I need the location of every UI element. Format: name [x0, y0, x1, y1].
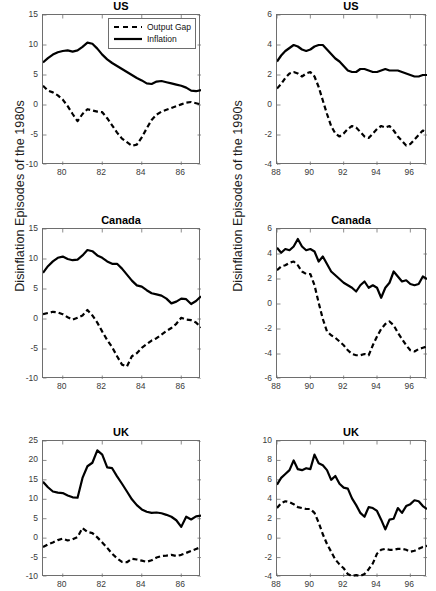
- x-tick-label: 94: [371, 381, 380, 391]
- x-tick-label: 96: [405, 167, 414, 177]
- x-tick-label: 88: [271, 167, 280, 177]
- series-inflation: [277, 455, 427, 530]
- series-output-gap: [43, 310, 201, 366]
- y-tick-label: -5: [4, 552, 38, 562]
- y-tick-label: 6: [238, 223, 272, 233]
- y-tick-label: 10: [4, 253, 38, 263]
- panel-title: UK: [276, 426, 426, 438]
- x-tick-label: 84: [136, 167, 145, 177]
- y-tick-label: -5: [4, 129, 38, 139]
- y-tick-label: -2: [238, 129, 272, 139]
- x-tick-label: 96: [405, 579, 414, 589]
- plot-area: [42, 228, 200, 378]
- y-tick-label: -10: [4, 373, 38, 383]
- series-canvas: [277, 229, 427, 379]
- x-tick-label: 92: [338, 381, 347, 391]
- series-inflation: [43, 450, 201, 527]
- y-tick-label: 2: [238, 273, 272, 283]
- legend-item-output-gap: Output Gap: [113, 21, 191, 33]
- y-tick-label: -4: [238, 159, 272, 169]
- dashed-line-icon: [113, 22, 143, 32]
- y-tick-label: 15: [4, 9, 38, 19]
- series-canvas: [43, 229, 201, 379]
- x-tick-label: 80: [57, 167, 66, 177]
- y-tick-label: 15: [4, 474, 38, 484]
- y-tick-label: 0: [238, 99, 272, 109]
- x-tick-label: 92: [338, 579, 347, 589]
- y-tick-label: 2: [238, 69, 272, 79]
- y-tick-label: 0: [4, 313, 38, 323]
- y-tick-label: 15: [4, 223, 38, 233]
- x-tick-label: 80: [57, 579, 66, 589]
- legend-item-inflation: Inflation: [113, 33, 191, 45]
- x-tick-label: 86: [176, 579, 185, 589]
- plot-area: [276, 228, 426, 378]
- x-tick-label: 94: [371, 579, 380, 589]
- y-tick-label: 6: [238, 9, 272, 19]
- y-tick-label: 8: [238, 454, 272, 464]
- x-tick-label: 82: [97, 579, 106, 589]
- solid-line-icon: [113, 34, 143, 44]
- legend-label: Output Gap: [147, 22, 191, 32]
- x-tick-label: 86: [176, 381, 185, 391]
- y-tick-label: -4: [238, 348, 272, 358]
- plot-area: [276, 14, 426, 164]
- y-tick-label: -5: [4, 343, 38, 353]
- series-canvas: [277, 441, 427, 577]
- series-output-gap: [277, 501, 427, 576]
- series-inflation: [43, 43, 201, 92]
- y-tick-label: 20: [4, 454, 38, 464]
- y-tick-label: -10: [4, 159, 38, 169]
- panel-uk-1990s: UK-4-202468108890929496: [236, 426, 426, 591]
- panel-title: UK: [42, 426, 200, 438]
- series-output-gap: [277, 262, 427, 356]
- y-tick-label: 0: [4, 532, 38, 542]
- panel-canada-1990s: Canada-6-4-202468890929496: [236, 214, 426, 394]
- series-output-gap: [277, 72, 427, 146]
- x-tick-label: 86: [176, 167, 185, 177]
- y-tick-label: -2: [238, 552, 272, 562]
- x-tick-label: 84: [136, 381, 145, 391]
- y-tick-label: 5: [4, 513, 38, 523]
- x-tick-label: 92: [338, 167, 347, 177]
- y-tick-label: 10: [238, 435, 272, 445]
- plot-area: [276, 440, 426, 576]
- y-tick-label: 5: [4, 283, 38, 293]
- y-tick-label: -4: [238, 571, 272, 581]
- x-tick-label: 82: [97, 167, 106, 177]
- series-canvas: [43, 441, 201, 577]
- y-tick-label: 5: [4, 69, 38, 79]
- y-tick-label: 2: [238, 513, 272, 523]
- legend: Output GapInflation: [108, 18, 196, 49]
- y-tick-label: -2: [238, 323, 272, 333]
- x-tick-label: 80: [57, 381, 66, 391]
- y-tick-label: 4: [238, 39, 272, 49]
- y-tick-label: 4: [238, 493, 272, 503]
- series-inflation: [277, 45, 427, 77]
- panel-title: US: [42, 0, 200, 12]
- plot-area: [42, 440, 200, 576]
- series-output-gap: [43, 528, 201, 562]
- y-tick-label: 4: [238, 248, 272, 258]
- series-canvas: [277, 15, 427, 165]
- panel-title: US: [276, 0, 426, 12]
- series-output-gap: [43, 86, 201, 146]
- x-tick-label: 94: [371, 167, 380, 177]
- y-tick-label: -6: [238, 373, 272, 383]
- x-tick-label: 88: [271, 579, 280, 589]
- x-tick-label: 96: [405, 381, 414, 391]
- x-tick-label: 82: [97, 381, 106, 391]
- x-tick-label: 90: [305, 381, 314, 391]
- y-tick-label: 0: [238, 532, 272, 542]
- y-tick-label: 0: [238, 298, 272, 308]
- y-tick-label: -10: [4, 571, 38, 581]
- y-tick-label: 10: [4, 493, 38, 503]
- panel-title: Canada: [42, 214, 200, 226]
- panel-title: Canada: [276, 214, 426, 226]
- x-tick-label: 90: [305, 167, 314, 177]
- y-tick-label: 25: [4, 435, 38, 445]
- y-tick-label: 6: [238, 474, 272, 484]
- legend-label: Inflation: [147, 34, 177, 44]
- panel-uk-1980s: UK-10-5051015202580828486: [2, 426, 200, 591]
